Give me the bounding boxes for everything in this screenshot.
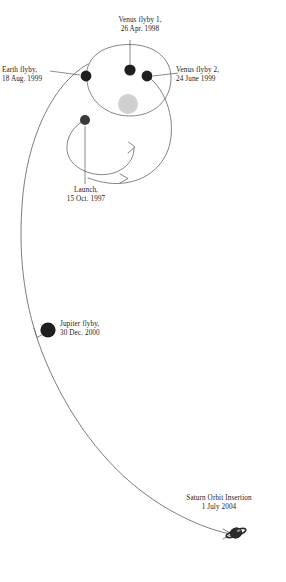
label-venus-flyby-2: Venus flyby 2, 24 June 1999 bbox=[176, 66, 276, 85]
cruise-trajectory-path bbox=[21, 64, 231, 534]
label-venus-flyby-1-line1: Venus flyby 1, bbox=[90, 16, 190, 25]
label-saturn-orbit-insertion-line2: 1 July 2004 bbox=[160, 503, 278, 512]
label-earth-flyby-line2: 18 Aug. 1999 bbox=[2, 75, 74, 84]
label-saturn-orbit-insertion: Saturn Orbit Insertion 1 July 2004 bbox=[160, 494, 278, 513]
label-leader-lines bbox=[50, 40, 178, 184]
label-launch-line2: 15 Oct. 1997 bbox=[44, 195, 128, 204]
marker-venus-flyby-2[interactable] bbox=[142, 71, 153, 82]
label-venus-flyby-2-line1: Venus flyby 2, bbox=[176, 66, 276, 75]
label-jupiter-flyby-line2: 30 Dec. 2000 bbox=[60, 329, 150, 338]
inner-spiral-path bbox=[67, 120, 134, 175]
sun-icon bbox=[118, 94, 138, 114]
label-venus-flyby-1: Venus flyby 1, 26 Apr. 1998 bbox=[90, 16, 190, 35]
outer-spiral-arrow-icon bbox=[120, 174, 128, 183]
label-saturn-orbit-insertion-line1: Saturn Orbit Insertion bbox=[160, 494, 278, 503]
orbit-paths bbox=[21, 44, 231, 534]
saturn-icon[interactable] bbox=[225, 526, 247, 540]
label-venus-flyby-1-line2: 26 Apr. 1998 bbox=[90, 25, 190, 34]
marker-venus-flyby-1[interactable] bbox=[124, 64, 135, 75]
marker-launch[interactable] bbox=[80, 115, 90, 125]
label-launch-line1: Launch, bbox=[44, 186, 128, 195]
label-jupiter-flyby-line1: Jupiter flyby, bbox=[60, 320, 150, 329]
label-launch: Launch, 15 Oct. 1997 bbox=[44, 186, 128, 205]
marker-earth-flyby[interactable] bbox=[81, 71, 92, 82]
label-earth-flyby-line1: Earth flyby, bbox=[2, 66, 74, 75]
marker-jupiter-flyby[interactable] bbox=[40, 322, 55, 337]
label-earth-flyby: Earth flyby, 18 Aug. 1999 bbox=[2, 66, 74, 85]
leader-venus2 bbox=[153, 73, 178, 76]
label-venus-flyby-2-line2: 24 June 1999 bbox=[176, 75, 276, 84]
trajectory-diagram: Venus flyby 1, 26 Apr. 1998 Earth flyby,… bbox=[0, 0, 286, 582]
label-jupiter-flyby: Jupiter flyby, 30 Dec. 2000 bbox=[60, 320, 150, 339]
